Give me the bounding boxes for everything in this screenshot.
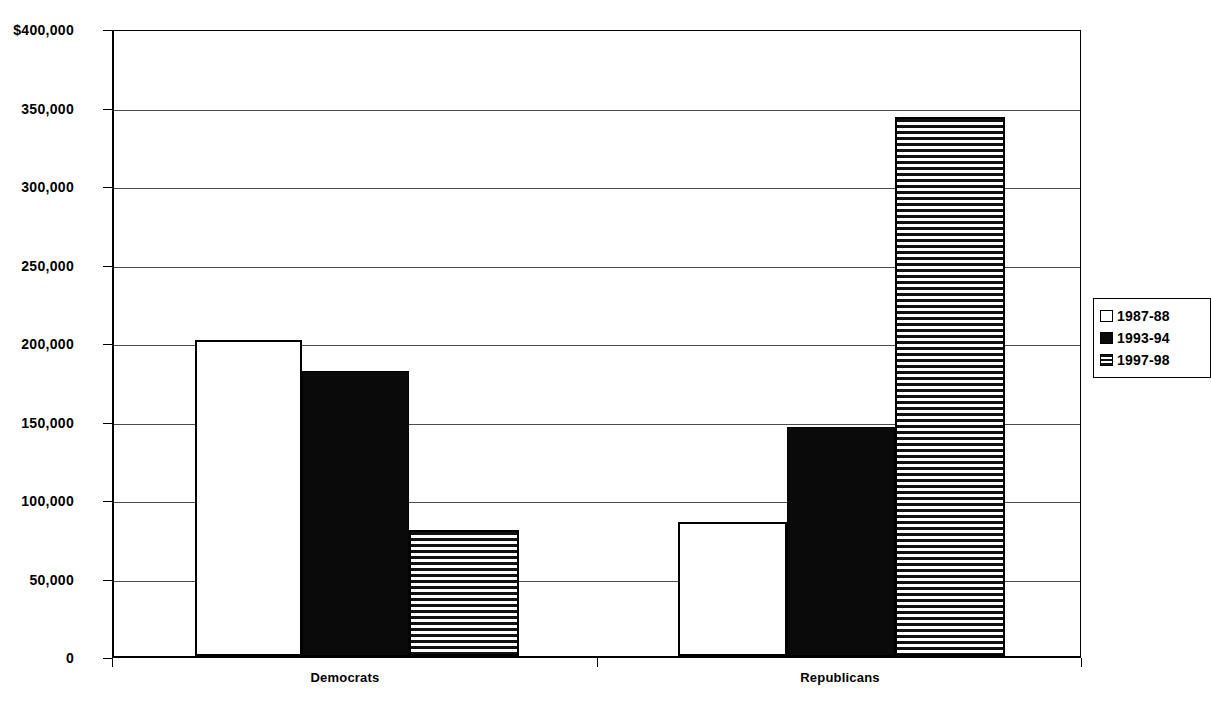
legend-label-1987-88: 1987-88 <box>1117 308 1170 324</box>
legend-item-1993-94: 1993-94 <box>1100 327 1205 349</box>
x-axis-tick-mark <box>597 658 598 667</box>
bar-democrats-1993-94 <box>302 371 409 656</box>
y-axis-tick-label: 200,000 <box>21 337 74 351</box>
x-axis-category-label-republicans: Republicans <box>800 670 880 685</box>
legend-label-1993-94: 1993-94 <box>1117 330 1170 346</box>
legend-swatch-icon-1993-94 <box>1100 332 1113 344</box>
bar-republicans-1993-94 <box>787 427 895 656</box>
bar-republicans-1987-88 <box>678 522 787 656</box>
y-axis-tick-label: 300,000 <box>21 180 74 194</box>
y-axis-tick-label: 250,000 <box>21 259 74 273</box>
x-axis-category-label-democrats: Democrats <box>311 670 380 685</box>
bar-democrats-1997-98 <box>409 530 519 656</box>
legend-swatch-icon-1997-98 <box>1100 354 1113 366</box>
y-axis-tick-label: $400,000 <box>13 23 74 37</box>
legend: 1987-88 1993-94 1997-98 <box>1093 298 1211 378</box>
plot-area <box>112 30 1081 658</box>
legend-item-1997-98: 1997-98 <box>1100 349 1205 371</box>
legend-item-1987-88: 1987-88 <box>1100 305 1205 327</box>
x-axis-tick-mark <box>1081 658 1082 667</box>
bar-democrats-1987-88 <box>195 340 302 656</box>
bar-republicans-1997-98 <box>895 117 1005 656</box>
y-axis-tick-label: 150,000 <box>21 416 74 430</box>
legend-swatch-icon-1987-88 <box>1100 310 1113 322</box>
y-axis-tick-label: 50,000 <box>29 573 74 587</box>
y-axis-tick-label: 100,000 <box>21 494 74 508</box>
legend-label-1997-98: 1997-98 <box>1117 352 1170 368</box>
y-axis-tick-label: 350,000 <box>21 102 74 116</box>
x-axis-tick-mark <box>112 658 113 667</box>
gridline <box>114 110 1080 111</box>
y-axis-tick-label: 0 <box>66 651 74 665</box>
